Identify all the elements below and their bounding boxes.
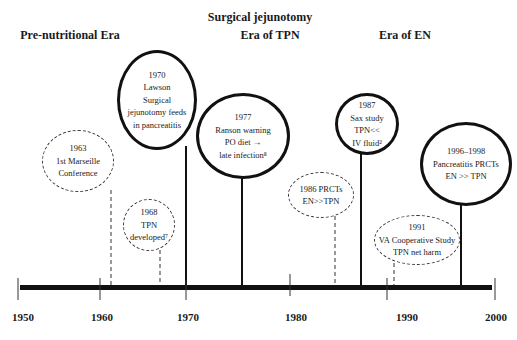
event-1977-bubble: 1977 Ranson warning PO diet → late infec… bbox=[196, 93, 290, 179]
event-1987-bubble: 1987 Sax study TPN<< IV fluid² bbox=[335, 93, 399, 155]
event-1986-bubble: 1986 PRCTs EN>>TPN bbox=[288, 172, 354, 218]
axis-bar bbox=[20, 285, 492, 290]
axis-label-1950: 1950 bbox=[12, 311, 34, 323]
figure-caption-clipped bbox=[8, 333, 508, 340]
axis-label-1980: 1980 bbox=[285, 311, 307, 323]
event-1968-bubble: 1968 TPN developed⁷ bbox=[123, 199, 175, 251]
event-1970-bubble: 1970 Lawson Surgical jejunotomy feeds in… bbox=[117, 50, 197, 150]
event-1996-bubble: 1996–1998 Pancreatitis PRCTs EN >> TPN bbox=[420, 122, 512, 206]
axis-label-1960: 1960 bbox=[91, 311, 113, 323]
event-1991-bubble: 1991 VA Cooperative Study TPN net harm bbox=[374, 215, 460, 265]
axis-label-1970: 1970 bbox=[177, 311, 199, 323]
event-1963-bubble: 1963 1st Marseille Conference bbox=[42, 130, 114, 192]
axis-label-1990: 1990 bbox=[396, 311, 418, 323]
axis-label-2000: 2000 bbox=[485, 311, 507, 323]
